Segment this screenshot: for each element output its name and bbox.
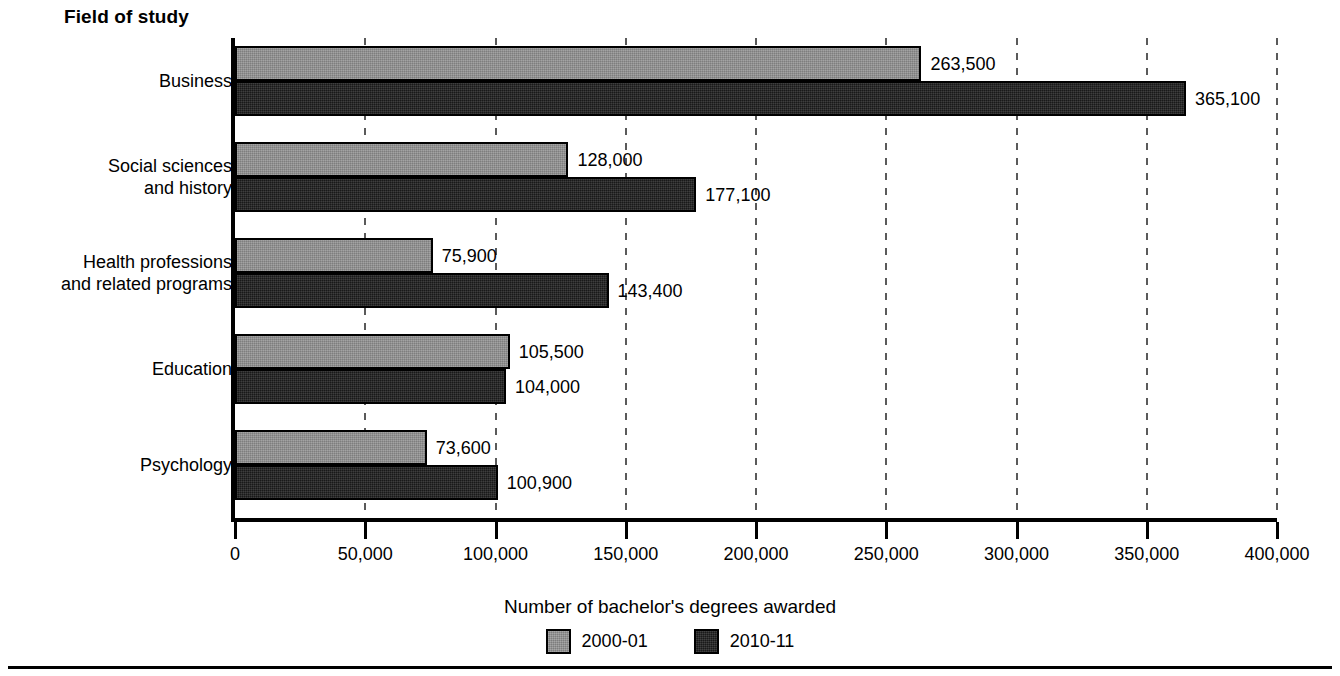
bar[interactable]: [235, 177, 696, 212]
bar-value-label: 143,400: [618, 280, 683, 301]
category-label: Education: [152, 358, 232, 381]
bar-value-label: 365,100: [1195, 88, 1260, 109]
x-axis-tick: [364, 522, 367, 539]
x-axis-tick: [885, 522, 888, 539]
bar[interactable]: [235, 334, 510, 369]
bar[interactable]: [235, 46, 921, 81]
bar-value-label: 263,500: [930, 53, 995, 74]
legend-label: 2010-11: [730, 631, 795, 652]
bar-value-label: 73,600: [436, 437, 491, 458]
x-axis-tick: [234, 522, 237, 539]
category-label: Health professions and related programs: [61, 251, 232, 296]
bar-group: 73,600100,900: [235, 430, 1277, 500]
footer-divider: [8, 666, 1332, 669]
bar-value-label: 128,000: [577, 149, 642, 170]
bar-row: 100,900: [235, 465, 1277, 500]
x-axis-tick-label: 100,000: [463, 544, 528, 565]
bar-group: 105,500104,000: [235, 334, 1277, 404]
bar-row: 365,100: [235, 81, 1277, 116]
bar[interactable]: [235, 465, 498, 500]
bar[interactable]: [235, 81, 1186, 116]
x-axis-tick-label: 0: [230, 544, 240, 565]
x-axis-tick-label: 150,000: [593, 544, 658, 565]
legend-swatch: [694, 629, 719, 654]
x-axis-title: Number of bachelor's degrees awarded: [0, 596, 1340, 618]
bar-value-label: 104,000: [515, 376, 580, 397]
x-axis-line: [231, 518, 1277, 522]
bar-row: 105,500: [235, 334, 1277, 369]
bar-row: 73,600: [235, 430, 1277, 465]
x-axis-tick: [1276, 522, 1279, 539]
bar-row: 177,100: [235, 177, 1277, 212]
bar-row: 143,400: [235, 273, 1277, 308]
bar[interactable]: [235, 238, 433, 273]
bar[interactable]: [235, 142, 568, 177]
bar-group: 128,000177,100: [235, 142, 1277, 212]
bar[interactable]: [235, 430, 427, 465]
bar-value-label: 177,100: [705, 184, 770, 205]
legend-label: 2000-01: [582, 631, 648, 652]
bar-row: 104,000: [235, 369, 1277, 404]
x-axis-tick: [1016, 522, 1019, 539]
x-axis-tick-label: 400,000: [1244, 544, 1309, 565]
x-axis-tick-label: 350,000: [1114, 544, 1179, 565]
x-axis-tick: [625, 522, 628, 539]
x-axis-tick: [495, 522, 498, 539]
bar-row: 128,000: [235, 142, 1277, 177]
bar[interactable]: [235, 273, 609, 308]
bar-value-label: 75,900: [442, 245, 497, 266]
legend-item[interactable]: 2000-01: [546, 629, 648, 654]
x-axis-tick-label: 200,000: [723, 544, 788, 565]
bar-group: 263,500365,100: [235, 46, 1277, 116]
bar-row: 263,500: [235, 46, 1277, 81]
bar-group: 75,900143,400: [235, 238, 1277, 308]
x-axis-tick: [1146, 522, 1149, 539]
legend-swatch: [546, 629, 571, 654]
legend-item[interactable]: 2010-11: [694, 629, 795, 654]
category-label: Business: [159, 70, 232, 93]
bar-value-label: 105,500: [519, 341, 584, 362]
x-axis-tick-label: 50,000: [338, 544, 393, 565]
chart-legend: 2000-012010-11: [0, 629, 1340, 654]
y-axis-title: Field of study: [64, 6, 189, 28]
plot-area: 263,500365,100128,000177,10075,900143,40…: [235, 38, 1277, 518]
bar-row: 75,900: [235, 238, 1277, 273]
bar-value-label: 100,900: [507, 472, 572, 493]
x-axis-tick-label: 300,000: [984, 544, 1049, 565]
bar[interactable]: [235, 369, 506, 404]
bar-chart: Field of study 263,500365,100128,000177,…: [0, 0, 1340, 676]
x-axis-tick-label: 250,000: [854, 544, 919, 565]
category-label: Social sciences and history: [108, 155, 232, 200]
category-label: Psychology: [140, 454, 232, 477]
x-axis-tick: [755, 522, 758, 539]
